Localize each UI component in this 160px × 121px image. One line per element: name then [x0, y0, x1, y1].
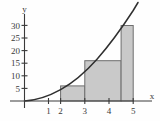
y-tick-label: 30: [11, 21, 21, 31]
chart-canvas: 5 10 15 20 25 30 1 2 3 4 5 y x: [0, 0, 160, 121]
y-tick-label: 10: [11, 71, 21, 81]
x-tick-label: 2: [58, 106, 63, 116]
riemann-sum-figure: 5 10 15 20 25 30 1 2 3 4 5 y x: [0, 0, 160, 121]
x-tick-labels: 1 2 3 4 5: [46, 106, 136, 116]
y-tick-label: 25: [11, 33, 21, 43]
y-tick-label: 20: [11, 46, 21, 56]
x-tick-label: 3: [83, 106, 88, 116]
x-axis-label: x: [150, 91, 155, 101]
y-axis-label: y: [22, 4, 27, 14]
bars-group: [61, 26, 134, 102]
table-row: [121, 26, 133, 102]
x-tick-label: 5: [131, 106, 136, 116]
x-tick-label: 4: [107, 106, 112, 116]
y-tick-label: 15: [11, 58, 21, 68]
y-tick-labels: 5 10 15 20 25 30: [11, 21, 21, 94]
y-tick-label: 5: [16, 84, 21, 94]
x-tick-label: 1: [46, 106, 51, 116]
